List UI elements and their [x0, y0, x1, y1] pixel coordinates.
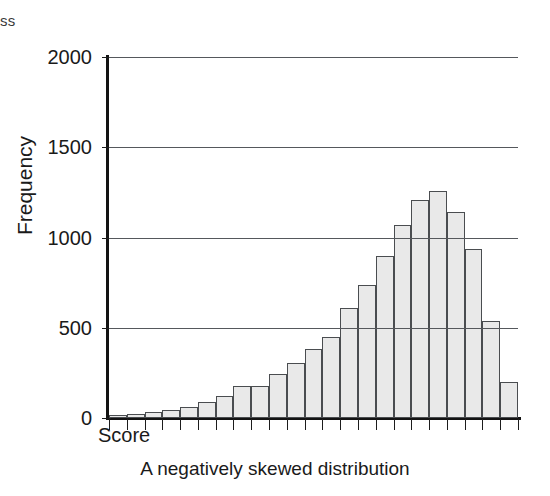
bar	[145, 412, 163, 418]
x-tick	[465, 419, 466, 430]
gridline-1500	[109, 147, 518, 148]
x-tick	[216, 419, 217, 430]
x-tick	[198, 419, 199, 430]
gridline-1000	[109, 238, 518, 239]
bar	[109, 415, 127, 418]
x-tick	[376, 419, 377, 430]
bar	[500, 382, 518, 418]
x-tick	[358, 419, 359, 430]
x-tick	[518, 419, 519, 430]
bar	[251, 386, 269, 418]
x-tick	[287, 419, 288, 430]
x-tick	[447, 419, 448, 430]
y-tick-label-1000: 1000	[30, 228, 92, 248]
y-tick-label-500: 500	[30, 318, 92, 338]
bar	[233, 386, 251, 418]
y-tick-label-wrap-0: 0	[30, 408, 92, 428]
y-tick-label-wrap-1500: 1500	[30, 137, 92, 157]
scan-text-fragment: ss	[0, 12, 15, 29]
plot-area	[109, 57, 518, 418]
y-tick-label-1500: 1500	[30, 137, 92, 157]
y-tick-label-2000: 2000	[30, 47, 92, 67]
bar	[180, 407, 198, 418]
x-tick	[251, 419, 252, 430]
bar	[358, 285, 376, 418]
bar	[322, 337, 340, 418]
x-tick	[394, 419, 395, 430]
gridline-500	[109, 328, 518, 329]
y-tick-label-wrap-500: 500	[30, 318, 92, 338]
figure-caption: A negatively skewed distribution	[0, 458, 550, 480]
y-tick-label-0: 0	[30, 408, 92, 428]
bar	[411, 200, 429, 418]
bar	[162, 410, 180, 418]
bar	[305, 349, 323, 418]
figure-histogram: ss 0500100015002000 Frequency Score A ne…	[0, 0, 550, 496]
bar	[287, 363, 305, 418]
bar	[127, 414, 145, 418]
x-tick	[411, 419, 412, 430]
x-tick	[162, 419, 163, 430]
x-tick	[322, 419, 323, 430]
x-tick	[500, 419, 501, 430]
gridline-2000	[109, 57, 518, 58]
x-tick	[340, 419, 341, 430]
x-tick	[269, 419, 270, 430]
x-tick	[180, 419, 181, 430]
x-tick	[482, 419, 483, 430]
y-tick-label-wrap-2000: 2000	[30, 47, 92, 67]
bar	[394, 225, 412, 418]
bar	[429, 191, 447, 418]
y-axis-title: Frequency	[14, 106, 35, 266]
x-tick	[305, 419, 306, 430]
x-axis-title: Score	[98, 424, 150, 446]
bar	[482, 321, 500, 418]
bar	[340, 308, 358, 418]
bar	[465, 249, 483, 418]
bar	[447, 212, 465, 418]
y-tick-label-wrap-1000: 1000	[30, 228, 92, 248]
bar	[198, 402, 216, 418]
bar	[376, 256, 394, 418]
x-tick	[429, 419, 430, 430]
bar	[216, 396, 234, 418]
bar	[269, 374, 287, 418]
x-tick	[233, 419, 234, 430]
